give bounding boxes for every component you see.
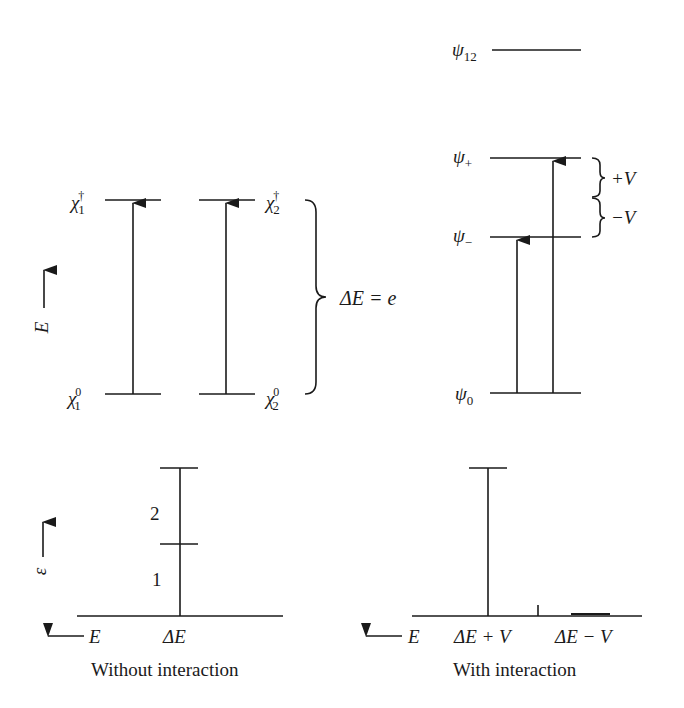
brace-minus-v-icon xyxy=(592,198,605,237)
label-psi0: ψ0 xyxy=(455,384,473,407)
plus-v-label: +V xyxy=(611,169,635,188)
spectrum-right-x-label: E xyxy=(408,627,420,646)
caption-with-interaction: With interaction xyxy=(453,659,576,681)
peak-label-minus: ΔE − V xyxy=(555,627,612,646)
brace-icon xyxy=(305,200,326,394)
energy-level-diagram xyxy=(0,0,684,708)
label-chi1-ground: χ01 xyxy=(68,386,81,412)
segment-label-1: 1 xyxy=(152,570,162,589)
label-psi12: ψ12 xyxy=(452,40,477,63)
caption-without-interaction: Without interaction xyxy=(91,659,239,681)
label-psi-minus: ψ− xyxy=(453,226,472,249)
brace-plus-v-icon xyxy=(592,158,605,197)
label-chi2-excited: χ†2 xyxy=(266,190,280,216)
delta-e-label: ΔE = e xyxy=(340,288,396,308)
peak-label-plus: ΔE + V xyxy=(454,627,511,646)
label-chi1-excited: χ†1 xyxy=(71,190,85,216)
energy-axis-label: E xyxy=(32,322,51,334)
label-psi-plus: ψ+ xyxy=(453,147,472,170)
spectrum-left-x-label: E xyxy=(89,627,101,646)
minus-v-label: −V xyxy=(611,208,635,227)
delta-e-text: ΔE = e xyxy=(340,287,396,309)
segment-label-2: 2 xyxy=(150,504,160,523)
label-chi2-ground: χ02 xyxy=(266,386,279,412)
epsilon-axis-label: ε xyxy=(30,568,49,576)
spectrum-left-peak-label: ΔE xyxy=(163,627,186,646)
